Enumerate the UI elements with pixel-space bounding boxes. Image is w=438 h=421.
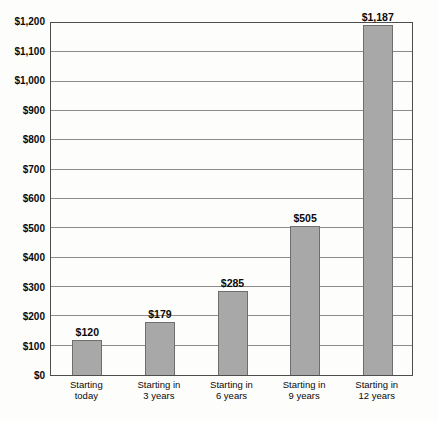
bar-starting-in-9-years [290,226,320,375]
y-axis-tick-label: $500 [0,223,45,235]
y-axis-tick-label: $300 [0,282,45,294]
x-axis-category-line: Starting in [119,380,199,391]
bar-value-label: $285 [221,277,244,289]
gridline [51,169,412,170]
x-axis-category-line: Starting in [192,380,272,391]
bar-starting-in-6-years [218,291,248,375]
y-axis-tick-label: $1,000 [0,75,45,87]
x-axis-category-line: Starting in [337,380,417,391]
bar-value-label: $179 [148,308,171,320]
x-axis-category-line: Starting [46,380,126,391]
bar-starting-in-3-years [145,322,175,375]
y-axis-tick-label: $400 [0,252,45,264]
y-axis-tick-label: $900 [0,105,45,117]
y-axis-tick-label: $1,200 [0,16,45,28]
bar-value-label: $505 [293,212,316,224]
y-axis-tick-label: $1,100 [0,46,45,58]
y-axis-tick-label: $200 [0,311,45,323]
x-axis-category-label: Starting in9 years [264,380,344,401]
y-axis-tick-label: $100 [0,341,45,353]
bar-value-label: $120 [76,326,99,338]
x-axis-category-line: Starting in [264,380,344,391]
y-axis-tick-label: $600 [0,193,45,205]
gridline [51,110,412,111]
x-axis-category-line: 12 years [337,391,417,402]
gridline [51,51,412,52]
y-axis-tick-label: $0 [0,370,45,382]
gridline [51,227,412,228]
y-axis-tick-label: $800 [0,134,45,146]
bar-chart: $120$179$285$505$1,187 $0$100$200$300$40… [0,0,438,421]
bar-starting-in-12-years [363,25,393,375]
gridline [51,139,412,140]
y-axis-tick-label: $700 [0,164,45,176]
x-axis-category-line: today [46,391,126,402]
x-axis-category-label: Starting in6 years [192,380,272,401]
bar-starting-today [72,340,102,375]
x-axis-category-label: Startingtoday [46,380,126,401]
x-axis-category-label: Starting in3 years [119,380,199,401]
x-axis-category-line: 6 years [192,391,272,402]
bar-value-label: $1,187 [362,11,394,23]
plot-area: $120$179$285$505$1,187 [50,22,413,376]
x-axis-category-line: 3 years [119,391,199,402]
gridline [51,257,412,258]
gridline [51,81,412,82]
x-axis-category-label: Starting in12 years [337,380,417,401]
gridline [51,198,412,199]
x-axis-category-line: 9 years [264,391,344,402]
